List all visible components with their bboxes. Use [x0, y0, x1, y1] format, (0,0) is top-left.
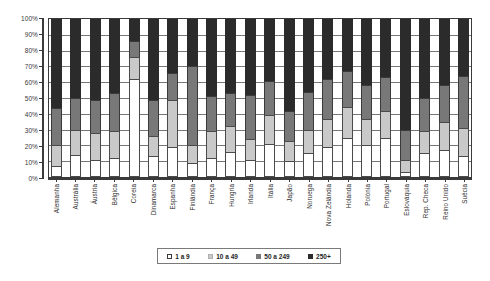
x-label-cell: Coreia — [128, 178, 139, 240]
bar-su-cia[interactable] — [458, 19, 469, 177]
bar-segment — [187, 19, 198, 66]
y-tick-label: 50% — [25, 95, 38, 102]
x-tick-label: Espanha — [169, 184, 176, 210]
bar-alemanha[interactable] — [51, 19, 62, 177]
bar-irlanda[interactable] — [245, 19, 256, 177]
x-tick-label: Portugal — [383, 184, 390, 208]
bar-segment — [419, 19, 430, 98]
bar-segment — [148, 136, 159, 157]
x-label-cell: Reino Unido — [439, 178, 450, 240]
bar-segment — [148, 19, 159, 100]
bar-nova-zel-ndia[interactable] — [322, 19, 333, 177]
y-tick-label: 80% — [25, 47, 38, 54]
bar-segment — [206, 131, 217, 158]
bar-segment — [167, 100, 178, 147]
bar-it-lia[interactable] — [264, 19, 275, 177]
x-tick-mark — [309, 178, 310, 182]
y-axis: 0%10%20%30%40%50%60%70%80%90%100% — [0, 18, 44, 178]
bar-segment — [90, 133, 101, 160]
bar-coreia[interactable] — [129, 19, 140, 177]
bar-segment — [70, 155, 81, 177]
bar-segment — [439, 85, 450, 121]
bar-dinamarca[interactable] — [148, 19, 159, 177]
bar-eslov-quia[interactable] — [400, 19, 411, 177]
legend-item[interactable]: 50 a 249 — [256, 253, 289, 260]
x-label-cell: Polónia — [362, 178, 373, 240]
bar-rep-checa[interactable] — [419, 19, 430, 177]
x-tick-mark — [425, 178, 426, 182]
bar-segment — [380, 19, 391, 77]
bar-fran-a[interactable] — [206, 19, 217, 177]
bar-segment — [361, 85, 372, 118]
bar-pol-nia[interactable] — [361, 19, 372, 177]
bar-segment — [264, 19, 275, 81]
x-tick-mark — [386, 178, 387, 182]
bar-segment — [206, 158, 217, 177]
bar-segment — [400, 130, 411, 160]
bar-segment — [51, 19, 62, 107]
x-tick-label: Dinamarca — [149, 184, 156, 215]
x-tick-label: Noruega — [305, 184, 312, 209]
bar-holanda[interactable] — [342, 19, 353, 177]
legend-item[interactable]: 250+ — [308, 253, 331, 260]
x-tick-mark — [153, 178, 154, 182]
y-tick-mark — [39, 34, 44, 35]
bar-segment — [342, 107, 353, 137]
bar-segment — [129, 57, 140, 79]
bar-portugal[interactable] — [380, 19, 391, 177]
bar-segment — [284, 19, 295, 111]
bar-austr-lia[interactable] — [70, 19, 81, 177]
bar-segment — [245, 139, 256, 160]
bar-segment — [400, 160, 411, 173]
bar-b-lgica[interactable] — [109, 19, 120, 177]
x-label-cell: Itália — [264, 178, 275, 240]
bar-segment — [380, 138, 391, 178]
x-tick-mark — [56, 178, 57, 182]
bar-segment — [109, 131, 120, 158]
legend-item[interactable]: 1 a 9 — [167, 253, 189, 260]
bar-segment — [303, 19, 314, 92]
bar-finl-ndia[interactable] — [187, 19, 198, 177]
bar-segment — [167, 19, 178, 73]
x-tick-mark — [367, 178, 368, 182]
bar-hungria[interactable] — [225, 19, 236, 177]
bar-noruega[interactable] — [303, 19, 314, 177]
bar-segment — [380, 77, 391, 110]
x-label-cell: Portugal — [381, 178, 392, 240]
y-tick-label: 10% — [25, 159, 38, 166]
bar-segment — [439, 122, 450, 150]
bar-segment — [70, 19, 81, 98]
bar-jap-o[interactable] — [284, 19, 295, 177]
x-tick-label: Finlândia — [188, 184, 195, 210]
x-tick-mark — [172, 178, 173, 182]
bar-segment — [148, 156, 159, 177]
x-label-cell: Eslováquia — [400, 178, 411, 240]
x-tick-mark — [94, 178, 95, 182]
bar-segment — [51, 108, 62, 146]
x-label-cell: Noruega — [303, 178, 314, 240]
bar-espanha[interactable] — [167, 19, 178, 177]
x-tick-label: Austrália — [71, 184, 78, 209]
bar--ustria[interactable] — [90, 19, 101, 177]
y-tick-mark — [39, 162, 44, 163]
bar-segment — [458, 156, 469, 177]
x-tick-mark — [75, 178, 76, 182]
bar-reino-unido[interactable] — [439, 19, 450, 177]
bar-segment — [303, 130, 314, 154]
bar-segment — [187, 66, 198, 145]
x-axis: AlemanhaAustráliaÁustriaBélgicaCoreiaDin… — [48, 178, 472, 240]
x-tick-mark — [289, 178, 290, 182]
x-tick-mark — [406, 178, 407, 182]
bar-segment — [322, 19, 333, 79]
bar-segment — [187, 145, 198, 162]
x-label-cell: Japão — [284, 178, 295, 240]
bar-segment — [361, 145, 372, 177]
bar-segment — [322, 79, 333, 119]
x-tick-mark — [348, 178, 349, 182]
bar-segment — [90, 19, 101, 100]
legend-swatch-icon — [308, 254, 313, 259]
x-axis-labels: AlemanhaAustráliaÁustriaBélgicaCoreiaDin… — [48, 178, 472, 240]
bar-segment — [225, 126, 236, 151]
bar-segment — [458, 76, 469, 128]
legend-item[interactable]: 10 a 49 — [208, 253, 238, 260]
